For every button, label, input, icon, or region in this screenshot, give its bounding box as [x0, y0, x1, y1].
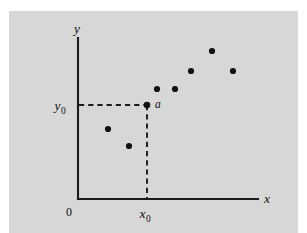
data-point	[105, 126, 111, 132]
data-point	[230, 68, 236, 74]
data-point-a	[144, 102, 151, 109]
scatter-plot-svg: y x 0 y0 x0 a	[9, 11, 298, 233]
data-point	[126, 143, 132, 149]
data-point	[209, 48, 215, 54]
x-axis-label: x	[263, 191, 270, 206]
data-point	[188, 68, 194, 74]
data-point	[154, 86, 160, 92]
scatter-plot-panel: y x 0 y0 x0 a	[9, 11, 298, 233]
x0-tick-subscript: 0	[146, 214, 151, 224]
y0-tick-base: y	[52, 98, 60, 113]
y0-tick-subscript: 0	[61, 106, 66, 116]
y0-tick-label: y0	[52, 98, 66, 116]
figure-root: y x 0 y0 x0 a	[0, 0, 307, 233]
data-point	[172, 86, 178, 92]
x0-tick-label: x0	[138, 206, 151, 224]
x0-tick-base: x	[138, 206, 145, 221]
origin-label: 0	[66, 205, 72, 219]
y-axis-label: y	[72, 21, 80, 36]
point-a-label: a	[155, 98, 161, 110]
